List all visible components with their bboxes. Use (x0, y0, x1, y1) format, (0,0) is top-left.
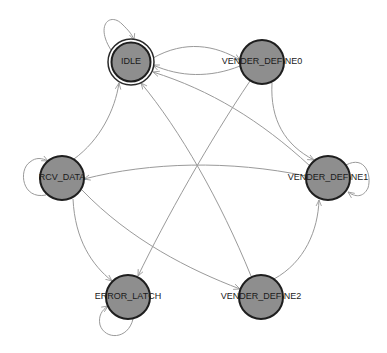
edge-vender-define2-to-vender-define1 (274, 200, 319, 279)
node-label: VENDER_DEFINE0 (222, 56, 303, 66)
nodes: IDLE VENDER_DEFINE0 RCV_DATA VENDER_DEFI… (39, 39, 369, 319)
node-rcv-data[interactable]: RCV_DATA (39, 156, 86, 200)
edge-vender-define0-to-vender-define1 (272, 83, 314, 160)
edge-rcv-data-to-vender-define2 (82, 190, 240, 289)
node-label: ERROR_LATCH (95, 291, 161, 301)
node-vender-define0[interactable]: VENDER_DEFINE0 (222, 40, 303, 84)
node-idle[interactable]: IDLE (108, 39, 154, 85)
edge-vender-define2-to-idle (141, 83, 251, 276)
edge-vender-define0-to-error-latch (138, 81, 250, 276)
node-label: VENDER_DEFINE1 (288, 172, 369, 182)
node-label: IDLE (121, 56, 141, 66)
edge-rcv-data-to-error-latch (73, 199, 112, 281)
state-diagram: IDLE VENDER_DEFINE0 RCV_DATA VENDER_DEFI… (0, 0, 387, 353)
edge-rcv-data-to-idle (74, 83, 119, 159)
node-vender-define2[interactable]: VENDER_DEFINE2 (221, 275, 302, 319)
edge-vender-define1-to-idle (153, 72, 310, 166)
edge-vender-define0-to-idle (153, 65, 240, 75)
node-label: RCV_DATA (39, 172, 86, 182)
edge-vender-define1-to-rcv-data (84, 165, 306, 179)
node-label: VENDER_DEFINE2 (221, 291, 302, 301)
node-error-latch[interactable]: ERROR_LATCH (95, 275, 161, 319)
